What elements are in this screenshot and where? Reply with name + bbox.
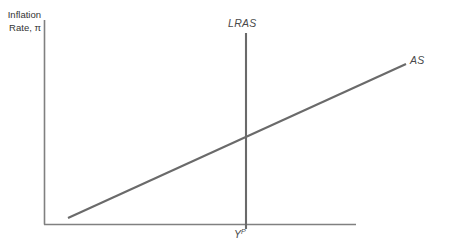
as-curve	[68, 64, 406, 218]
lras-curve-label: LRAS	[228, 17, 257, 30]
y-axis-title-line2: Rate, π	[0, 22, 41, 35]
aggregate-supply-diagram: Inflation Rate, π LRAS AS YP	[0, 0, 450, 243]
potential-output-axis-label: YP	[234, 228, 246, 241]
y-axis-title-line1: Inflation	[0, 9, 41, 22]
y-axis-title: Inflation Rate, π	[0, 9, 41, 34]
potential-output-base: Y	[234, 228, 241, 240]
as-curve-label: AS	[410, 54, 425, 67]
chart-plot-area	[0, 0, 450, 243]
potential-output-superscript: P	[241, 228, 246, 235]
